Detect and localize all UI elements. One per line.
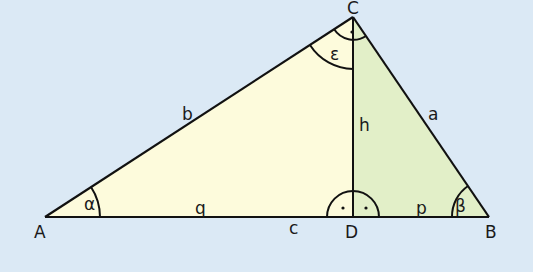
vertex-c-label: C: [347, 0, 359, 18]
right-angle-d-dot-left: [341, 206, 344, 209]
vertex-b-label: B: [485, 222, 497, 242]
vertex-a-label: A: [34, 222, 46, 242]
right-angle-d-dot-right: [364, 206, 367, 209]
angle-alpha-label: α: [84, 194, 95, 214]
triangle-diagram: A B C D b a c h p q α β ε: [0, 0, 533, 272]
angle-epsilon-label: ε: [330, 44, 339, 64]
vertex-d-label: D: [345, 222, 358, 242]
angle-beta-label: β: [455, 196, 466, 216]
segment-p-label: p: [416, 198, 427, 218]
side-a-label: a: [428, 104, 438, 124]
segment-q-label: q: [195, 198, 206, 218]
altitude-h-label: h: [359, 115, 370, 135]
side-c-label: c: [289, 218, 298, 238]
side-b-label: b: [182, 104, 193, 124]
